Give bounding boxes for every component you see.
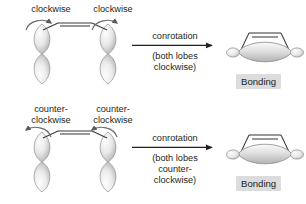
counterclockwise-row-panel: counter- clockwise counter- clockwise co… [0, 102, 306, 204]
right-rotation-label-bottom: counter- clockwise [84, 104, 142, 125]
bonding-badge-bottom: Bonding [236, 176, 281, 191]
back-lobe-left-top [227, 48, 240, 57]
p-orbital-left-top [34, 24, 50, 84]
diene-backbone-top [43, 23, 107, 30]
p-orbital-right-top [100, 24, 116, 84]
product-structure-bonding-top [226, 22, 304, 74]
p-orbital-left-bottom [34, 132, 50, 192]
back-lobe-right-bottom [291, 150, 304, 159]
conrotation-sublabel-line2-bottom: counter- [132, 164, 218, 175]
product-structure-bonding-bottom [226, 124, 304, 176]
reactant-structure-clockwise [20, 18, 145, 96]
overlap-lens-top [238, 42, 292, 62]
p-orbital-right-bottom [100, 132, 116, 192]
left-rotation-label-bottom: counter- clockwise [22, 104, 80, 125]
conrotation-sublabel-line1-top: (both lobes [132, 51, 218, 62]
right-rotation-label-top: clockwise [84, 4, 142, 15]
bonding-badge-top: Bonding [236, 74, 281, 89]
clockwise-row-panel: clockwise clockwise [0, 0, 306, 102]
conrotation-sublabel-line1-bottom: (both lobes [132, 153, 218, 164]
left-rotation-label-top: clockwise [22, 4, 80, 15]
conrotation-label-top: conrotation [132, 31, 218, 42]
back-lobe-right-top [291, 48, 304, 57]
reactant-structure-counterclockwise [20, 126, 145, 204]
overlap-lens-bottom [238, 144, 292, 164]
back-lobe-left-bottom [227, 150, 240, 159]
conrotation-sublabel-line2-top: clockwise) [132, 62, 218, 73]
conrotation-sublabel-line3-bottom: clockwise) [132, 175, 218, 186]
conrotation-label-bottom: conrotation [132, 133, 218, 144]
diene-backbone-bottom [43, 131, 107, 138]
